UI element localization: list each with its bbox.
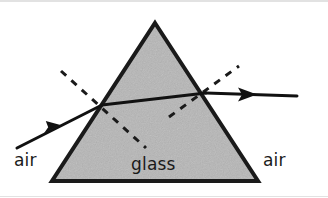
refraction-diagram: air glass air xyxy=(0,0,328,198)
label-air-right: air xyxy=(263,150,286,170)
label-air-left: air xyxy=(14,150,37,170)
diagram-canvas: air glass air xyxy=(0,0,328,198)
label-glass: glass xyxy=(131,154,176,174)
